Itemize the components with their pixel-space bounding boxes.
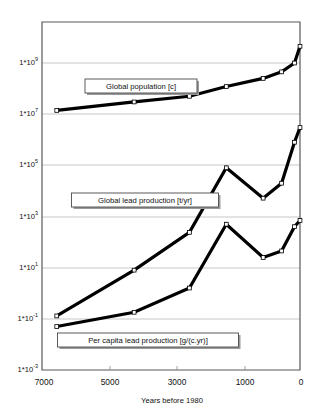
data-point-marker <box>55 109 59 113</box>
x-tick-label-1000: 1000 <box>236 377 255 387</box>
y-tick-label-6: 1*10-3 <box>18 363 38 374</box>
x-tick-label-3000: 3000 <box>168 377 187 387</box>
data-point-marker <box>298 126 302 130</box>
data-point-marker <box>132 268 136 272</box>
y-tick-label-2: 1*105 <box>19 158 38 169</box>
y-tick-label-1: 1*107 <box>19 107 38 118</box>
data-point-marker <box>55 314 59 318</box>
data-point-marker <box>261 196 265 200</box>
data-point-marker <box>298 44 302 48</box>
x-axis-title: Years before 1980 <box>141 396 203 405</box>
callout-1: Global lead production [t/yr] <box>72 193 221 209</box>
x-tick-label-5000: 5000 <box>101 377 120 387</box>
callout-0: Global population [c] <box>85 79 199 95</box>
data-point-marker <box>224 85 228 89</box>
data-point-marker <box>132 310 136 314</box>
data-point-marker <box>132 100 136 104</box>
y-tick-label-4: 1*101 <box>19 261 38 272</box>
data-point-marker <box>298 219 302 223</box>
callout-label: Per capita lead production [g/(c.yr)] <box>88 336 208 345</box>
callout-2: Per capita lead production [g/(c.yr)] <box>58 333 241 349</box>
data-point-marker <box>280 249 284 253</box>
x-axis-tick-labels: 7000 5000 3000 1000 0 <box>35 377 304 387</box>
x-tick-label-7000: 7000 <box>35 377 54 387</box>
chart-svg: 1*109 1*107 1*105 1*103 1*101 1*10-1 1*1… <box>0 0 317 418</box>
callout-label: Global population [c] <box>106 82 176 91</box>
callout-label: Global lead production [t/yr] <box>98 196 192 205</box>
y-tick-label-5: 1*10-1 <box>18 312 38 323</box>
y-tick-label-0: 1*109 <box>19 56 38 67</box>
data-point-marker <box>293 140 297 144</box>
data-point-marker <box>188 230 192 234</box>
data-point-marker <box>280 181 284 185</box>
data-point-marker <box>224 166 228 170</box>
data-point-marker <box>55 325 59 329</box>
data-point-marker <box>261 256 265 260</box>
y-axis-tick-labels: 1*109 1*107 1*105 1*103 1*101 1*10-1 1*1… <box>18 56 38 374</box>
data-point-marker <box>280 70 284 74</box>
data-point-marker <box>293 225 297 229</box>
data-point-marker <box>224 222 228 226</box>
x-tick-label-0: 0 <box>299 377 304 387</box>
data-point-marker <box>188 286 192 290</box>
data-point-marker <box>293 61 297 65</box>
y-tick-label-3: 1*103 <box>19 210 38 221</box>
chart-figure: 1*109 1*107 1*105 1*103 1*101 1*10-1 1*1… <box>0 0 317 418</box>
data-point-marker <box>261 77 265 81</box>
